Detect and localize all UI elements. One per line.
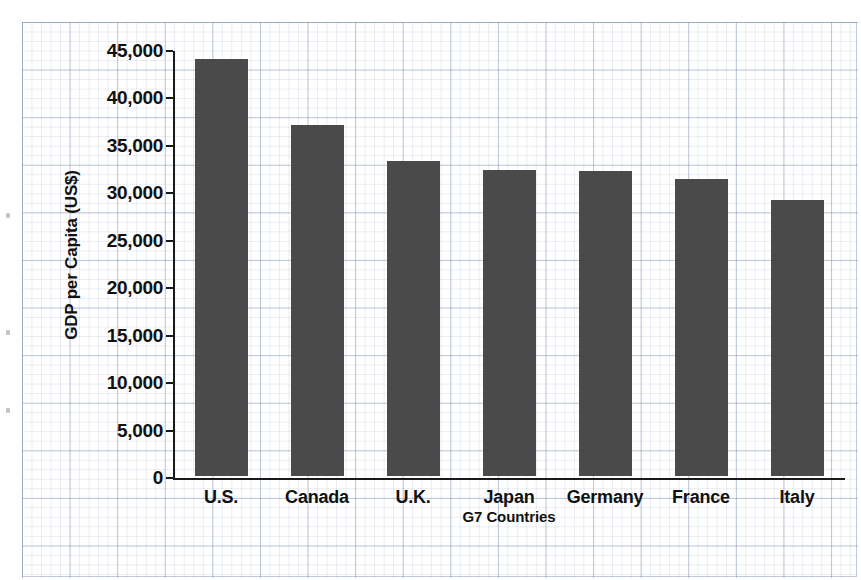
bar-u-k[interactable]: [387, 161, 440, 476]
y-axis-tick-label: 20,000: [43, 277, 163, 299]
x-axis-tick-label: Canada: [269, 487, 365, 508]
y-axis-tick-label: 40,000: [43, 87, 163, 109]
y-axis-tick-mark: [166, 287, 173, 289]
bar-japan[interactable]: [483, 170, 536, 476]
y-axis-tick-mark: [166, 192, 173, 194]
x-axis-tick-label: Italy: [749, 487, 845, 508]
x-axis-tick-label: France: [653, 487, 749, 508]
chart-page: GDP per Capita (US$) 45,00040,00035,0003…: [0, 0, 861, 580]
y-axis-tick-mark: [166, 335, 173, 337]
y-axis-tick-mark: [166, 145, 173, 147]
y-axis-tick-label: 10,000: [43, 372, 163, 394]
x-axis-tick-label: U.S.: [173, 487, 269, 508]
y-axis-tick-mark: [166, 240, 173, 242]
y-axis-line: [173, 51, 175, 479]
plot-area: 45,00040,00035,00030,00025,00020,00015,0…: [173, 51, 845, 478]
bar-france[interactable]: [675, 179, 728, 476]
x-axis-tick-label: U.K.: [365, 487, 461, 508]
x-axis-tick-label: Germany: [557, 487, 653, 508]
x-axis-title: G7 Countries: [173, 508, 845, 525]
bar-chart: GDP per Capita (US$) 45,00040,00035,0003…: [0, 0, 861, 580]
y-axis-tick-mark: [166, 382, 173, 384]
y-axis-tick-mark: [166, 430, 173, 432]
bar-germany[interactable]: [579, 171, 632, 476]
y-axis-tick-label: 45,000: [43, 40, 163, 62]
y-axis-tick-label: 0: [43, 467, 163, 489]
y-axis-tick-mark: [166, 477, 173, 479]
y-axis-tick-label: 5,000: [43, 420, 163, 442]
bar-u-s[interactable]: [195, 59, 248, 477]
x-axis-tick-label: Japan: [461, 487, 557, 508]
y-axis-tick-label: 30,000: [43, 182, 163, 204]
y-axis-tick-label: 25,000: [43, 230, 163, 252]
y-axis-tick-label: 35,000: [43, 135, 163, 157]
x-axis-line: [173, 478, 845, 480]
y-axis-tick-label: 15,000: [43, 325, 163, 347]
y-axis-tick-mark: [166, 97, 173, 99]
bar-italy[interactable]: [771, 200, 824, 476]
bar-canada[interactable]: [291, 125, 344, 476]
y-axis-tick-mark: [166, 50, 173, 52]
